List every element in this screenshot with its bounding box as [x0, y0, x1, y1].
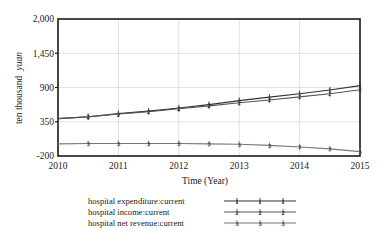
data-point-marker: 2 [298, 93, 302, 101]
data-point-marker: 2 [147, 108, 151, 116]
data-point-marker: 3 [237, 141, 241, 149]
data-point-marker: 2 [328, 90, 332, 98]
chart-legend: hospital expenditure:current111hospital … [88, 196, 296, 228]
y-tick-label: 900 [40, 83, 55, 93]
legend-marker-glyph: 1 [235, 198, 239, 206]
legend-marker-glyph: 3 [281, 220, 285, 228]
data-point-marker: 3 [268, 142, 272, 150]
data-point-marker: 2 [207, 102, 211, 110]
legend-marker-glyph: 1 [281, 198, 285, 206]
legend-marker-glyph: 3 [235, 220, 239, 228]
x-axis-tick-labels: 201020112012201320142015 [49, 161, 370, 171]
data-point-marker: 3 [117, 140, 121, 148]
x-tick-label: 2012 [169, 161, 188, 171]
data-point-marker: 2 [358, 86, 362, 94]
x-tick-label: 2010 [49, 161, 68, 171]
x-axis-title: Time (Year) [182, 176, 228, 187]
data-point-marker: 3 [328, 145, 332, 153]
y-axis-title: ten thousand yuan [14, 52, 24, 124]
data-point-marker: 2 [268, 96, 272, 104]
y-tick-label: 1,450 [33, 49, 55, 59]
x-tick-label: 2011 [109, 161, 128, 171]
data-point-marker: 3 [86, 140, 90, 148]
chart-container: 111111111122222222223333333333 -20035090… [0, 0, 382, 238]
data-point-marker: 3 [147, 140, 151, 148]
y-tick-label: 350 [40, 117, 55, 127]
legend-marker-glyph: 2 [258, 209, 262, 217]
data-point-marker: 3 [207, 140, 211, 148]
data-point-marker: 2 [237, 99, 241, 107]
x-tick-label: 2015 [351, 161, 370, 171]
x-tick-label: 2013 [230, 161, 249, 171]
data-point-marker: 2 [117, 111, 121, 119]
x-tick-label: 2014 [290, 161, 309, 171]
data-point-marker: 2 [177, 105, 181, 113]
line-chart: 111111111122222222223333333333 -20035090… [0, 0, 382, 238]
data-point-marker: 3 [298, 143, 302, 151]
legend-marker-glyph: 2 [281, 209, 285, 217]
legend-marker-glyph: 2 [235, 209, 239, 217]
y-axis-title-italic: yuan [14, 52, 24, 72]
legend-label: hospital net revenue:current [88, 218, 185, 228]
data-point-marker: 3 [358, 148, 362, 156]
y-tick-label: -200 [37, 151, 55, 161]
y-axis-title-plain: ten thousand [14, 76, 24, 125]
legend-marker-glyph: 1 [258, 198, 262, 206]
y-axis-tick-labels: -2003509001,4502,000 [33, 14, 58, 161]
y-tick-label: 2,000 [33, 14, 55, 24]
legend-label: hospital income:current [88, 207, 170, 217]
data-point-marker: 3 [177, 140, 181, 148]
legend-label: hospital expenditure:current [88, 196, 185, 206]
data-point-marker: 2 [86, 113, 90, 121]
legend-marker-glyph: 3 [258, 220, 262, 228]
